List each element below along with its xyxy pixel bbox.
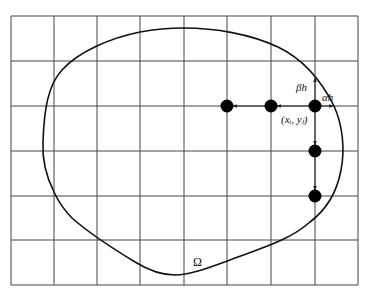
arrows	[233, 78, 333, 190]
node-center	[309, 100, 322, 113]
diagram-canvas	[0, 0, 370, 298]
alpha-h-label: αh	[322, 92, 333, 103]
node-left-2	[221, 100, 234, 113]
beta-h-label: βh	[296, 82, 307, 93]
node-left-1	[265, 100, 278, 113]
node-down-2	[309, 190, 322, 203]
node-down-1	[309, 145, 322, 158]
mesh-grid	[11, 16, 358, 285]
point-label: (xᵢ, yⱼ)	[281, 114, 307, 125]
domain-label-omega: Ω	[193, 256, 202, 268]
